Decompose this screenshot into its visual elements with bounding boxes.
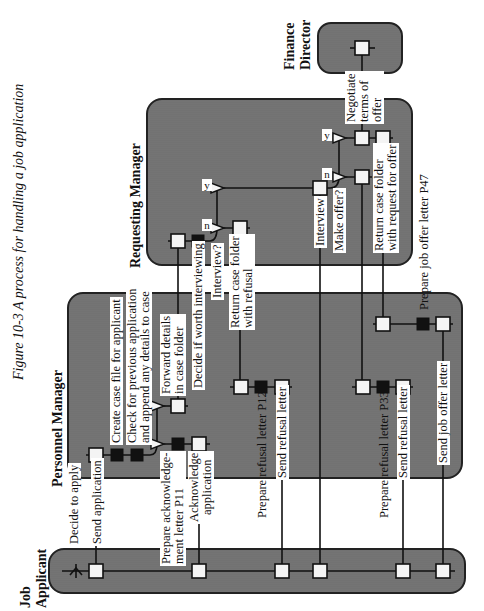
label-prepare-refusal-p12: Prepare refusal letter P12 (256, 389, 269, 520)
label-send-offer: Send job offer letter (437, 361, 450, 465)
label-prepare-ack: Prepare acknowledge- ment letter P11 (160, 451, 186, 566)
label-decide-apply: Decide to apply (68, 463, 81, 546)
label-negotiate-line3: offer (371, 73, 384, 122)
label-decide-worth: Decide if worth interviewing (192, 241, 205, 390)
label-send-refusal-2: Send refusal letter (397, 385, 410, 480)
label-return-refusal-line2: with refusal (242, 236, 255, 328)
label-prepare-refusal-p33: Prepare refusal letter P33 (378, 389, 391, 520)
decision-no-interview: n (202, 219, 212, 231)
label-prepare-ack-line2: ment letter P11 (173, 453, 186, 564)
label-return-offer: Return case folder with request for offe… (373, 143, 399, 253)
label-send-refusal-1: Send refusal letter (276, 385, 289, 480)
label-send-application: Send application (91, 458, 104, 546)
label-ack-line2: application (201, 453, 214, 522)
label-interview: Interview (314, 196, 327, 248)
label-prepare-offer: Prepare job offer letter P47 (418, 172, 431, 312)
label-interview-question: Interview? (211, 243, 224, 300)
label-check-previous-line2: and append any details to case (139, 289, 152, 443)
label-negotiate: Negotiate terms of offer (345, 71, 384, 124)
decision-no-offer: n (322, 168, 332, 180)
decision-yes-offer: y (322, 129, 332, 141)
label-create-case: Create case file for applicant (110, 297, 123, 445)
label-forward-details: Forward details in case folder (160, 314, 186, 396)
label-return-refusal: Return case folder with refusal (229, 234, 255, 330)
label-acknowledge: Acknowledge application (188, 451, 214, 524)
decision-yes-interview: y (202, 179, 212, 191)
label-check-previous: Check for previous application and appen… (126, 287, 152, 445)
label-forward-line2: in case folder (173, 316, 186, 394)
label-make-offer-question: Make offer? (333, 188, 346, 253)
label-return-offer-line2: with request for offer (386, 145, 399, 251)
